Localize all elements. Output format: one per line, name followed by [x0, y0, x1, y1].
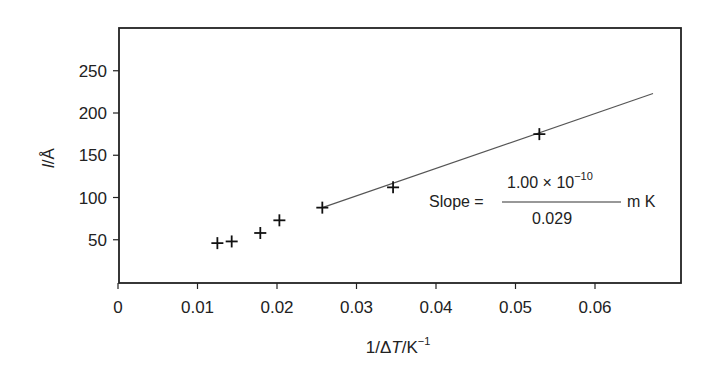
plot-frame — [119, 28, 681, 283]
x-axis-label: 1/ΔT/K−1 — [366, 335, 431, 357]
x-tick-label: 0.04 — [419, 298, 452, 317]
x-tick-label: 0.05 — [499, 298, 532, 317]
slope-unit: m K — [627, 193, 656, 210]
slope-numerator: 1.00 × 10−10 — [507, 170, 593, 191]
y-tick-label: 200 — [79, 104, 107, 123]
x-tick-label: 0.03 — [340, 298, 373, 317]
y-tick-label: 250 — [79, 62, 107, 81]
fit-line-segment — [322, 94, 653, 208]
y-tick-label: 150 — [79, 146, 107, 165]
x-tick-label: 0.01 — [181, 298, 214, 317]
plus-marker — [211, 237, 223, 249]
y-axis-ticks: 50100150200250 — [79, 62, 119, 250]
plus-marker — [316, 202, 328, 214]
y-axis-label: l/Å — [39, 147, 58, 168]
x-tick-label: 0.06 — [578, 298, 611, 317]
y-tick-label: 100 — [79, 189, 107, 208]
x-axis-ticks: 00.010.020.030.040.050.06 — [113, 283, 611, 317]
scatter-chart: 50100150200250 00.010.020.030.040.050.06… — [0, 0, 717, 374]
x-tick-label: 0 — [113, 298, 122, 317]
plus-marker — [226, 235, 238, 247]
fit-line — [322, 94, 653, 208]
slope-prefix: Slope = — [429, 193, 484, 210]
plus-marker — [254, 227, 266, 239]
slope-annotation: Slope = 1.00 × 10−10 0.029 m K — [429, 170, 656, 227]
slope-denominator: 0.029 — [532, 210, 572, 227]
plus-marker — [533, 128, 545, 140]
y-tick-label: 50 — [88, 231, 107, 250]
plus-marker — [387, 181, 399, 193]
x-tick-label: 0.02 — [260, 298, 293, 317]
plus-marker — [273, 214, 285, 226]
